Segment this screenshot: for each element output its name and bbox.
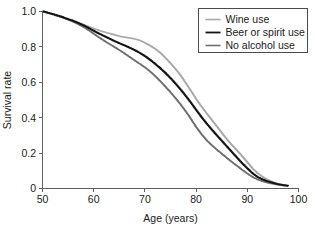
legend-label: Wine use bbox=[226, 13, 270, 25]
y-tick-label: 0.8 bbox=[21, 41, 36, 53]
x-tick-label: 100 bbox=[290, 193, 308, 205]
x-axis-title: Age (years) bbox=[143, 212, 197, 224]
x-tick-label: 50 bbox=[37, 193, 49, 205]
y-tick-label: 0.6 bbox=[21, 76, 36, 88]
y-axis-title: Survival rate bbox=[1, 71, 13, 130]
chart-legend: Wine useBeer or spirit useNo alcohol use bbox=[199, 9, 308, 53]
legend-label: No alcohol use bbox=[226, 39, 296, 51]
legend-label: Beer or spirit use bbox=[226, 26, 306, 38]
y-tick-label: 0 bbox=[30, 182, 36, 194]
x-tick-label: 60 bbox=[88, 193, 100, 205]
y-tick-label: 0.4 bbox=[21, 112, 36, 124]
x-tick-label: 90 bbox=[241, 193, 253, 205]
x-tick-label: 70 bbox=[139, 193, 151, 205]
y-tick-label: 0.2 bbox=[21, 147, 36, 159]
y-tick-label: 1.0 bbox=[21, 5, 36, 17]
x-tick-label: 80 bbox=[190, 193, 202, 205]
chart-canvas: No alcohol useWine useBeer or spirit use… bbox=[0, 0, 315, 229]
survival-curve-figure: No alcohol useWine useBeer or spirit use… bbox=[0, 0, 315, 229]
